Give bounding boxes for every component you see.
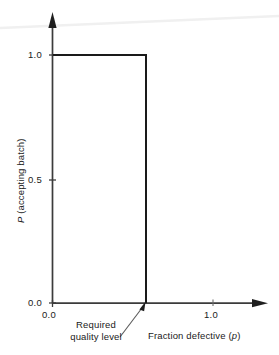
- x-axis-arrowhead: [252, 299, 268, 307]
- y-axis-label-variable: P: [15, 217, 26, 224]
- x-axis-label-text-post: ): [237, 330, 240, 341]
- x-tick-label-1.0: 1.0: [204, 309, 218, 321]
- x-axis-label-text-pre: Fraction defective (: [148, 330, 232, 341]
- y-tick-label-1.0: 1.0: [28, 49, 42, 61]
- annotation-required-quality-level: Required quality level: [60, 319, 132, 343]
- y-tick-label-0.0: 0.0: [28, 297, 42, 309]
- y-axis-label-text: (accepting batch): [15, 138, 26, 216]
- y-axis-label: P (accepting batch): [15, 126, 27, 236]
- annotation-line-2: quality level: [60, 331, 132, 343]
- x-tick-label-0.0: 0.0: [42, 309, 56, 321]
- oc-curve: [53, 55, 146, 303]
- annotation-line-1: Required: [60, 319, 132, 331]
- y-tick-label-0.5: 0.5: [28, 174, 42, 186]
- x-axis-label: Fraction defective (p): [148, 330, 241, 342]
- scan-artifact-line: [0, 16, 279, 28]
- y-axis-arrowhead: [48, 12, 56, 28]
- chart-figure: 1.0 0.5 0.0 0.0 1.0 P (accepting batch) …: [0, 0, 279, 355]
